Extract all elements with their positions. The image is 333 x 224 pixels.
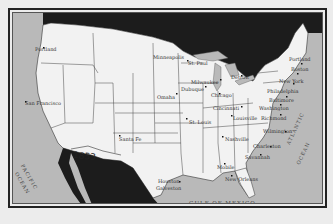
city-label-dubuque: Dubuque xyxy=(181,87,204,92)
city-label-richmond: Richmond xyxy=(261,116,287,121)
city-label-houston: Houston xyxy=(158,179,179,184)
city-label-san-francisco: San Francisco xyxy=(25,101,61,106)
city-label-savannah: Savannah xyxy=(245,155,270,160)
city-label-new-york: New York xyxy=(279,79,304,84)
city-label-washington: Washington xyxy=(259,106,289,111)
city-label-nashville: Nashville xyxy=(225,137,249,142)
city-label-baltimore: Baltimore xyxy=(269,98,294,103)
map-frame: Portland San Francisco Minneapolis St. P… xyxy=(8,8,327,208)
city-label-wilmington: Wilmington xyxy=(263,129,292,134)
gulf-of-mexico-label: GULF OF MEXICO xyxy=(189,200,256,204)
map-canvas: Portland San Francisco Minneapolis St. P… xyxy=(12,12,323,204)
city-label-chicago: Chicago xyxy=(211,93,232,98)
city-label-milwaukee: Milwaukee xyxy=(191,80,219,85)
city-label-new-orleans: New Orleans xyxy=(225,177,258,182)
city-label-portland-or: Portland xyxy=(35,47,57,52)
city-label-charleston: Charleston xyxy=(253,144,281,149)
city-label-minneapolis: Minneapolis xyxy=(153,55,184,60)
florida xyxy=(235,168,255,198)
city-label-portland-me: Portland xyxy=(289,57,311,62)
city-label-boston: Boston xyxy=(291,67,309,72)
city-label-santa-fe: Santa Fe xyxy=(119,137,141,142)
city-label-st-paul: St. Paul xyxy=(188,61,208,66)
city-label-detroit: Detroit xyxy=(231,75,249,80)
city-label-cincinnati: Cincinnati xyxy=(213,106,239,111)
city-label-philadelphia: Philadelphia xyxy=(267,89,299,94)
city-label-mobile: Mobile xyxy=(217,165,235,170)
city-label-st-louis: St. Louis xyxy=(189,120,211,125)
city-label-galveston: Galveston xyxy=(156,186,181,191)
city-label-louisville: Louisville xyxy=(233,116,257,121)
city-label-omaha: Omaha xyxy=(157,95,175,100)
